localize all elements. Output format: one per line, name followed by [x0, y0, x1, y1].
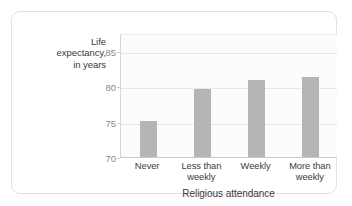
x-tick-label: Weekly — [228, 161, 284, 172]
y-tick-label: 85 — [86, 46, 116, 57]
x-tick-label-line: weekly — [173, 172, 229, 183]
y-axis-tick-labels: 70758085 — [84, 34, 116, 158]
figure-card: Life expectancy, in years 70758085 Never… — [11, 11, 337, 194]
x-tick-label-line: Less than — [173, 161, 229, 172]
x-tick-label: Never — [119, 161, 175, 172]
x-axis-line — [120, 157, 337, 158]
plot-area — [120, 34, 337, 158]
y-tick-label: 80 — [86, 82, 116, 93]
y-tick-mark — [117, 158, 120, 159]
y-tick-label: 75 — [86, 117, 116, 128]
x-tick-label: Less thanweekly — [173, 161, 229, 183]
bar — [194, 89, 211, 158]
x-tick-label: More thanweekly — [282, 161, 338, 183]
x-tick-label-line: Never — [119, 161, 175, 172]
gridline — [121, 53, 337, 54]
bar — [302, 77, 319, 158]
x-tick-label-line: Weekly — [228, 161, 284, 172]
x-axis-tick-labels: NeverLess thanweeklyWeeklyMore thanweekl… — [120, 161, 337, 187]
x-tick-label-line: weekly — [282, 172, 338, 183]
bar — [248, 80, 265, 158]
bar — [140, 121, 157, 158]
x-axis-title: Religious attendance — [120, 188, 337, 199]
y-tick-label: 70 — [86, 153, 116, 164]
x-tick-label-line: More than — [282, 161, 338, 172]
